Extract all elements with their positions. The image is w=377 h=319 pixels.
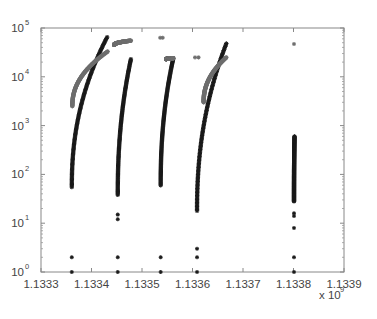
x-tick-label: 1.1334 (74, 278, 110, 290)
x-multiplier-label: x 10 (319, 289, 341, 301)
svg-text:10: 10 (11, 71, 24, 83)
svg-text:3: 3 (25, 116, 29, 125)
x-tick-label: 1.1338 (276, 278, 311, 290)
y-tick-label: 100 (11, 262, 29, 278)
svg-text:4: 4 (25, 67, 29, 76)
x-tick-label: 1.1337 (225, 278, 260, 290)
y-tick-label: 102 (11, 164, 29, 180)
svg-text:10: 10 (11, 217, 24, 229)
y-tick-label: 104 (11, 67, 29, 83)
svg-text:10: 10 (11, 168, 24, 180)
plot-area (41, 28, 344, 272)
x-tick-label: 1.1333 (23, 278, 58, 290)
y-tick-label: 103 (11, 116, 29, 132)
svg-text:0: 0 (25, 262, 29, 271)
x-multiplier-exponent: 9 (340, 285, 344, 294)
chart: 1.13331.13341.13351.13361.13371.13381.13… (0, 0, 377, 319)
svg-text:1: 1 (25, 213, 29, 222)
svg-text:10: 10 (11, 266, 24, 278)
svg-text:5: 5 (25, 18, 29, 27)
y-tick-label: 105 (11, 18, 29, 34)
svg-text:10: 10 (11, 22, 24, 34)
svg-text:10: 10 (11, 120, 24, 132)
x-tick-label: 1.1335 (124, 278, 159, 290)
x-tick-label: 1.1336 (175, 278, 210, 290)
svg-text:2: 2 (25, 164, 29, 173)
y-tick-label: 101 (11, 213, 29, 229)
